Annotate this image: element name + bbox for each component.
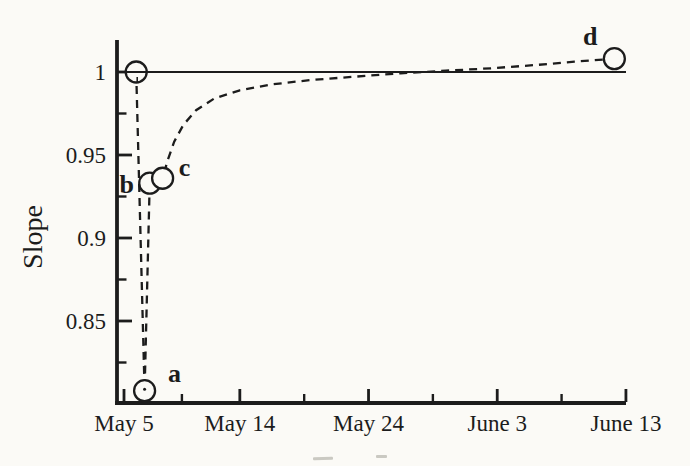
point-label-d: d — [583, 22, 598, 51]
y-axis-title: Slope — [17, 205, 48, 269]
series-layer: abcd — [117, 22, 626, 402]
y-tick-label: 0.9 — [77, 226, 106, 251]
data-point-c — [152, 168, 173, 189]
x-tick-label: May 5 — [94, 411, 153, 436]
data-point-d — [604, 48, 625, 69]
x-tick-label: May 24 — [333, 411, 404, 436]
axes-layer — [115, 40, 626, 405]
scanned-figure-page: 10.950.90.85May 5May 14May 24June 3June … — [0, 0, 690, 466]
ticks-layer: 10.950.90.85May 5May 14May 24June 3June … — [66, 60, 662, 436]
y-tick-label: 0.85 — [66, 309, 106, 334]
point-label-a: a — [168, 359, 181, 388]
x-tick-label: May 14 — [204, 411, 275, 436]
point-label-b: b — [120, 170, 134, 199]
dashed-data-curve — [136, 59, 614, 391]
y-tick-label: 0.95 — [66, 143, 106, 168]
scan-artifact — [376, 455, 387, 458]
slope-chart: 10.950.90.85May 5May 14May 24June 3June … — [0, 0, 690, 466]
x-tick-label: June 3 — [468, 411, 527, 436]
x-tick-label: June 13 — [590, 411, 661, 436]
point-label-c: c — [179, 153, 191, 182]
y-tick-label: 1 — [95, 60, 107, 85]
dash-remnant — [143, 388, 146, 391]
